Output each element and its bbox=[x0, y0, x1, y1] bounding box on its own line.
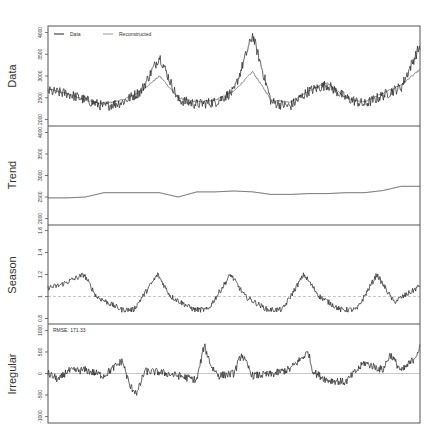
series-trend-line bbox=[48, 186, 420, 198]
y-tick-label: 0.8 bbox=[37, 315, 43, 322]
y-tick-label: 500 bbox=[37, 348, 43, 357]
y-tick-label: 2500 bbox=[37, 92, 43, 103]
y-tick-label: 3500 bbox=[37, 48, 43, 59]
y-tick-label: 4000 bbox=[37, 27, 43, 38]
y-tick-label: 3000 bbox=[37, 170, 43, 181]
decomposition-figure: 2000250030003500400020002500300035004000… bbox=[0, 0, 440, 446]
y-tick-label: 3500 bbox=[37, 148, 43, 159]
y-tick-label: 2500 bbox=[37, 191, 43, 202]
y-tick-label: -1000 bbox=[37, 410, 43, 423]
y-tick-label: 4000 bbox=[37, 127, 43, 138]
y-tick-label: 1 bbox=[37, 295, 43, 298]
legend-reconstructed-label: Reconstructed bbox=[119, 31, 151, 37]
y-tick-label: -500 bbox=[37, 390, 43, 400]
y-tick-label: 1.2 bbox=[37, 271, 43, 278]
y-tick-label: 1.4 bbox=[37, 249, 43, 256]
ylabel-irregular: Irregular bbox=[6, 353, 18, 394]
legend: Data Reconstructed bbox=[54, 31, 151, 37]
y-tick-label: 1000 bbox=[37, 325, 43, 336]
y-tick-label: 3000 bbox=[37, 70, 43, 81]
series-season-line bbox=[48, 273, 420, 313]
series-irregular-line bbox=[48, 344, 420, 396]
ylabel-data: Data bbox=[6, 64, 18, 88]
y-tick-label: 2000 bbox=[37, 114, 43, 125]
rmse-annotation: RMSE: 171.33 bbox=[53, 327, 86, 333]
ylabel-trend: Trend bbox=[6, 161, 18, 189]
legend-data-label: Data bbox=[70, 31, 81, 37]
y-tick-label: 0 bbox=[37, 372, 43, 375]
y-tick-label: 1.6 bbox=[37, 227, 43, 234]
ylabel-season: Season bbox=[6, 256, 18, 293]
y-tick-label: 2000 bbox=[37, 213, 43, 224]
series-data-line bbox=[48, 33, 420, 110]
